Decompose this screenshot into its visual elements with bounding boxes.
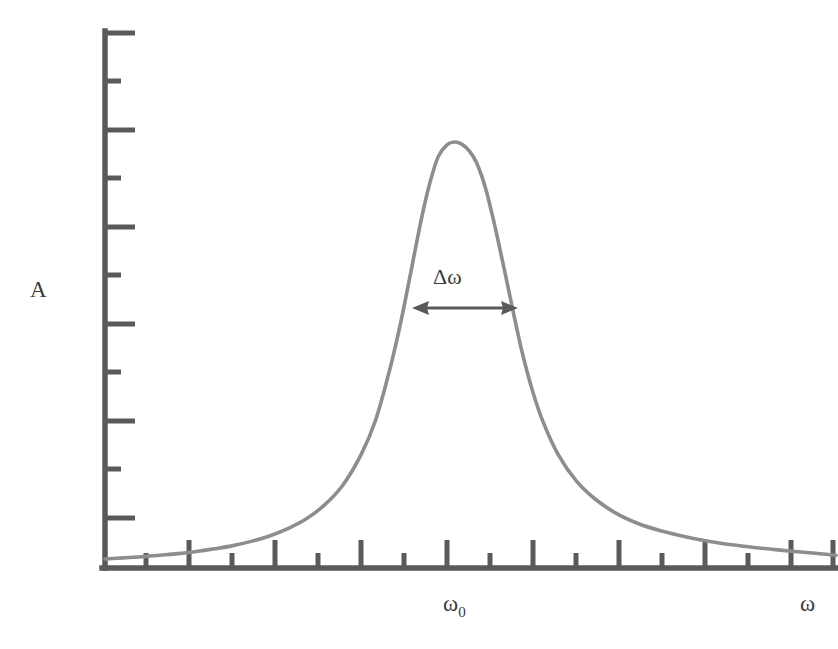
- omega-glyph: ω: [443, 591, 458, 616]
- delta-omega-arrowhead-left: [412, 301, 429, 315]
- resonance-frequency-label: ω0: [443, 592, 466, 619]
- resonance-plot-canvas: [0, 0, 838, 649]
- y-axis-ticks: [105, 33, 135, 518]
- resonance-curve-path: [105, 142, 836, 559]
- resonance-curve-figure: A Δω ω0 ω: [0, 0, 838, 649]
- axes-group: [102, 31, 836, 568]
- delta-omega-arrow: [412, 301, 518, 315]
- y-axis-label: A: [30, 278, 47, 301]
- x-axis-label: ω: [800, 592, 815, 615]
- delta-omega-label: Δω: [433, 266, 462, 288]
- delta-omega-arrowhead-right: [501, 301, 518, 315]
- omega-subscript: 0: [458, 603, 466, 620]
